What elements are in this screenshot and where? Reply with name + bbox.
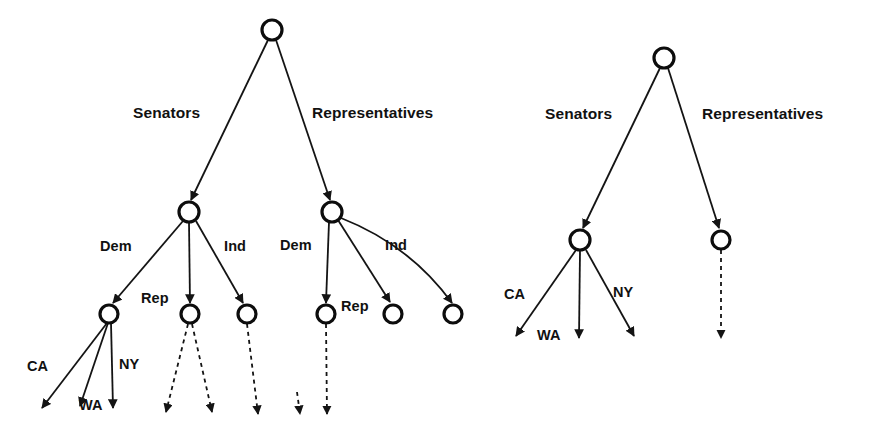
left-tree-root-edges — [191, 40, 330, 200]
left-sen-ind-node[interactable] — [238, 305, 256, 323]
left-rep-dem-node[interactable] — [317, 305, 335, 323]
left-label-senators: Senators — [133, 104, 200, 121]
left-representatives-edges — [326, 218, 452, 303]
left-label-dem-senators: Dem — [100, 238, 132, 254]
left-rep-rep-node[interactable] — [384, 305, 402, 323]
edge-reps-to-ind — [341, 218, 452, 303]
right-label-representatives: Representatives — [702, 105, 823, 122]
edge-root-to-senators — [583, 68, 660, 228]
left-label-state-ca: CA — [27, 358, 49, 374]
edge-dem-to-wa — [80, 323, 108, 406]
edge-sen-ind-leaf — [247, 324, 258, 414]
left-sen-dem-node[interactable] — [100, 305, 118, 323]
left-senators-node[interactable] — [179, 202, 199, 222]
right-senators-node[interactable] — [570, 230, 590, 250]
edge-reps-to-dem — [326, 222, 329, 303]
right-label-senators: Senators — [545, 105, 612, 122]
right-tree: Senators Representatives CA WA NY — [504, 48, 823, 343]
left-representatives-node[interactable] — [322, 202, 342, 222]
right-label-state-wa: WA — [537, 327, 561, 343]
edge-root-to-senators — [191, 40, 268, 200]
left-label-ind-senators: Ind — [224, 238, 246, 254]
edge-rep-dem-leaf — [326, 324, 327, 414]
edge-sen-rep-leaf-b — [192, 324, 212, 412]
left-label-rep-representatives: Rep — [341, 298, 369, 314]
left-sen-rep-node[interactable] — [181, 305, 199, 323]
edge-sen-rep-leaf-a — [166, 324, 188, 412]
left-label-representatives: Representatives — [312, 104, 433, 121]
left-label-ind-representatives: Ind — [385, 237, 407, 253]
right-label-state-ny: NY — [613, 284, 634, 300]
left-dashed-leaf-edges — [166, 324, 327, 414]
left-label-state-wa: WA — [79, 397, 103, 413]
diagram-canvas: Senators Representatives Dem Rep Ind Dem… — [0, 0, 875, 442]
edge-dem-to-ny — [111, 323, 113, 408]
right-root-node[interactable] — [654, 48, 674, 68]
tree-diagram-figure: Senators Representatives Dem Rep Ind Dem… — [0, 0, 875, 442]
edge-dem-to-ca — [42, 323, 107, 408]
left-senators-edges — [113, 221, 243, 303]
edge-reps-to-rep — [338, 220, 390, 302]
edge-senators-to-rep — [189, 222, 190, 303]
left-label-state-ny: NY — [119, 356, 140, 372]
edge-rep-dem-leaf-stub — [297, 392, 300, 414]
left-tree: Senators Representatives Dem Rep Ind Dem… — [27, 20, 462, 414]
left-label-rep-senators: Rep — [141, 290, 169, 306]
left-rep-ind-node[interactable] — [444, 305, 462, 323]
right-representatives-node[interactable] — [712, 231, 730, 249]
left-root-node[interactable] — [262, 20, 282, 40]
left-label-dem-representatives: Dem — [280, 237, 312, 253]
left-sen-dem-state-edges — [42, 323, 113, 408]
edge-senators-to-wa — [579, 251, 580, 338]
right-label-state-ca: CA — [504, 286, 526, 302]
right-tree-root-edges — [583, 68, 719, 228]
edge-senators-to-ind — [196, 221, 243, 303]
edge-root-to-representatives — [668, 68, 719, 228]
